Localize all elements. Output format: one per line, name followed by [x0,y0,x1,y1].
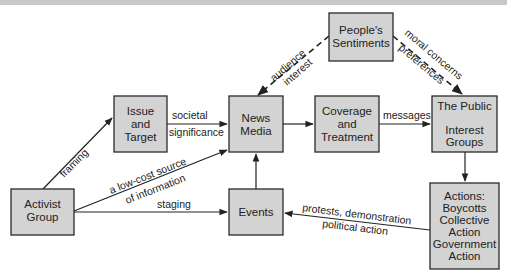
node-text: Treatment [321,131,374,143]
node-text: Events [238,206,273,218]
node-actions: Actions: Boycotts Collective Action Gove… [430,183,499,269]
label-societal: societal [172,109,208,121]
node-peoples-sentiments: People's Sentiments [329,13,393,61]
node-text: Action [449,250,481,262]
node-text: Coverage [322,105,372,117]
node-text: Group [27,211,59,223]
node-news-media: News Media [229,96,283,152]
node-text: Target [125,131,158,143]
node-text: Actions: [444,190,485,202]
node-text: People's [339,24,383,36]
label-messages: messages [383,109,431,121]
label-significance: significance [169,126,224,138]
node-text: Media [240,125,272,137]
node-coverage-and-treatment: Coverage and Treatment [315,96,379,152]
node-text: Sentiments [332,37,390,49]
node-text: Government [433,238,497,250]
node-issue-and-target: Issue and Target [114,96,167,152]
influence-diagram: framing societal significance a low-cost… [0,0,507,278]
label-staging: staging [157,198,191,210]
node-text: The Public [437,100,492,112]
node-text: Boycotts [442,202,486,214]
node-text: and [337,118,356,130]
label-framing: framing [57,146,90,179]
node-the-public: The Public Interest Groups [432,96,497,152]
node-text: Activist [24,198,61,210]
node-text: Collective [440,214,490,226]
node-activist-group: Activist Group [11,189,74,235]
node-text: Issue [127,105,155,117]
node-text: Action [449,226,481,238]
node-text: Interest [445,124,484,136]
node-text: and [131,118,150,130]
node-events: Events [229,189,283,235]
node-text: Groups [446,136,484,148]
node-text: News [242,112,271,124]
